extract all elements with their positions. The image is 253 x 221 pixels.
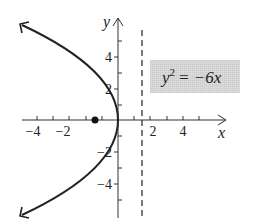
equation-lhs: y [160,68,170,87]
parabola-diagram: y2= −6x −4 −2 2 4 4 2 −2 −4 [0,0,253,221]
focus-point [92,117,99,124]
equation-label: y2= −6x [150,60,240,93]
x-tick-label: 2 [150,124,157,139]
x-axis-label: x [217,124,225,141]
x-tick-label: −2 [56,124,71,139]
x-tick-label: 4 [180,124,187,139]
x-axis [22,115,226,125]
equation-exponent: 2 [170,66,176,78]
svg-text:y2= −6x: y2= −6x [160,66,222,87]
y-tick-label: 4 [105,50,112,65]
x-tick-label: −4 [26,124,41,139]
y-axis-label: y [101,13,111,31]
equation-rhs: = −6x [178,68,222,87]
y-tick-label: −4 [97,177,112,192]
